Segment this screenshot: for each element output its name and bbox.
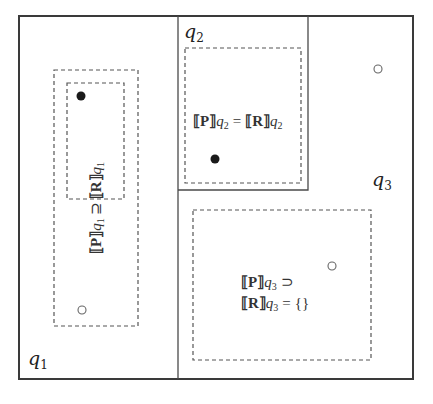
region-label-q1: q1: [28, 347, 48, 372]
state-space-diagram: q1 q2 q3 ⟦P⟧q1⊇⟦R⟧q1 ⟦P⟧q2=⟦R⟧q2 ⟦P⟧q3⊃ …: [0, 0, 433, 404]
hollow-point-q3-inner: [328, 262, 336, 270]
region-label-q2: q2: [184, 20, 204, 45]
q2-relation-label: ⟦P⟧q2=⟦R⟧q2: [193, 113, 282, 131]
q1-relation-label: ⟦P⟧q1⊇⟦R⟧q1: [88, 162, 106, 254]
hollow-point-q1: [78, 306, 86, 314]
q3-relation-line2: ⟦R⟧q3={}: [241, 295, 309, 313]
q3-relation-line1: ⟦P⟧q3⊃: [241, 274, 294, 292]
hollow-point-q3-outer: [374, 65, 382, 73]
filled-point-q2: [211, 155, 220, 164]
region-label-q3: q3: [372, 168, 392, 193]
filled-point-q1: [77, 92, 86, 101]
